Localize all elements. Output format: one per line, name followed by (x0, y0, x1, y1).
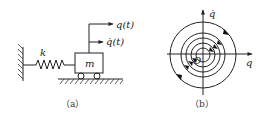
arrow-icon (223, 29, 229, 35)
mass-label: m (85, 58, 94, 69)
ground (58, 79, 123, 84)
panel-a-spring-mass: k m (18, 19, 134, 109)
diagram-canvas: k m (0, 0, 269, 123)
qdot-axis-label: q̇ (209, 8, 215, 19)
caption-a: （a） (61, 99, 84, 109)
arrow-icon (176, 74, 182, 80)
fixed-wall (18, 44, 23, 81)
displacement-label: q(t) (116, 19, 134, 30)
caption-b: （b） (190, 99, 214, 109)
velocity-label: q̇(t) (106, 36, 124, 47)
panel-b-phase-portrait: q q̇ O （b） (167, 8, 252, 109)
q-axis-label: q (246, 57, 252, 68)
spring (23, 60, 75, 69)
spring-label: k (40, 47, 46, 58)
